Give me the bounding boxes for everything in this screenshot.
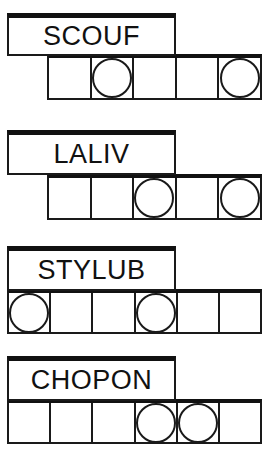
answer-cell[interactable] (51, 403, 93, 442)
answer-cell[interactable] (134, 178, 177, 218)
answer-cell[interactable] (220, 403, 260, 442)
answer-cell[interactable] (51, 293, 93, 332)
circle-marker-icon (178, 403, 218, 443)
scrambled-word-text-1: SCOUF (43, 23, 140, 50)
word-scramble-sheet: SCOUF LALIV (0, 0, 276, 453)
scrambled-word-box-3: STYLUB (7, 246, 176, 291)
answer-cell[interactable] (136, 403, 178, 442)
answer-cell[interactable] (9, 293, 51, 332)
circle-marker-icon (92, 58, 132, 98)
circle-marker-icon (136, 403, 176, 443)
answer-grid-1 (47, 54, 262, 100)
answer-cell[interactable] (92, 178, 135, 218)
answer-cell[interactable] (136, 293, 178, 332)
answer-cell[interactable] (93, 293, 135, 332)
answer-cell[interactable] (134, 58, 177, 98)
answer-grid-3 (7, 289, 262, 334)
scrambled-word-box-2: LALIV (7, 130, 176, 175)
answer-cell[interactable] (219, 58, 260, 98)
answer-cell[interactable] (9, 403, 51, 442)
answer-cell[interactable] (92, 58, 135, 98)
answer-cell[interactable] (49, 58, 92, 98)
answer-cell[interactable] (49, 178, 92, 218)
circle-marker-icon (134, 178, 174, 218)
answer-cell[interactable] (177, 58, 220, 98)
answer-grid-4 (7, 399, 262, 444)
circle-marker-icon (220, 178, 260, 218)
scrambled-word-text-4: CHOPON (31, 367, 153, 394)
answer-cell[interactable] (219, 178, 260, 218)
answer-cell[interactable] (178, 293, 220, 332)
answer-cell[interactable] (93, 403, 135, 442)
circle-marker-icon (220, 58, 260, 98)
answer-cell[interactable] (178, 403, 220, 442)
circle-marker-icon (136, 293, 176, 333)
answer-cell[interactable] (220, 293, 260, 332)
answer-grid-2 (47, 174, 262, 220)
scrambled-word-box-4: CHOPON (7, 356, 176, 401)
scrambled-word-text-2: LALIV (53, 141, 129, 168)
scrambled-word-box-1: SCOUF (7, 13, 176, 56)
circle-marker-icon (9, 293, 49, 333)
answer-cell[interactable] (177, 178, 220, 218)
scrambled-word-text-3: STYLUB (37, 257, 145, 284)
